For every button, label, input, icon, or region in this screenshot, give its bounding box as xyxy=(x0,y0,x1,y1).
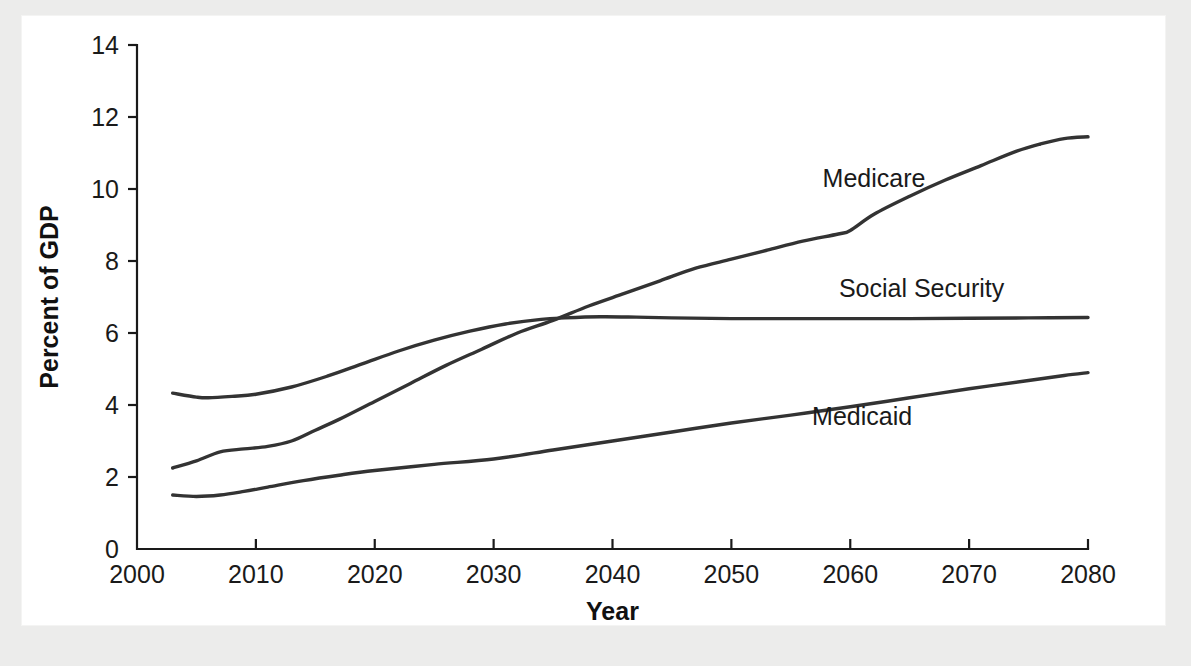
x-tick-label: 2060 xyxy=(822,560,878,588)
series-label-medicare: Medicare xyxy=(823,164,926,192)
y-axis-tick-labels: 02468101214 xyxy=(91,31,119,563)
series-line-social-security xyxy=(173,317,1088,398)
y-tick-label: 12 xyxy=(91,103,119,131)
x-tick-label: 2070 xyxy=(941,560,997,588)
figure-page: 02468101214 2000201020202030204020502060… xyxy=(22,16,1165,625)
series-label-social-security: Social Security xyxy=(839,274,1005,302)
x-tick-label: 2040 xyxy=(585,560,641,588)
series-lines xyxy=(173,137,1088,497)
figure-background: 02468101214 2000201020202030204020502060… xyxy=(0,0,1191,666)
x-tick-label: 2010 xyxy=(228,560,284,588)
series-annotations: MedicareSocial SecurityMedicaid xyxy=(812,164,1005,430)
x-tick-label: 2080 xyxy=(1060,560,1116,588)
x-tick-label: 2020 xyxy=(347,560,403,588)
x-tick-label: 2030 xyxy=(466,560,522,588)
x-tick-label: 2050 xyxy=(704,560,760,588)
chart-canvas: 02468101214 2000201020202030204020502060… xyxy=(22,16,1165,625)
x-tick-label: 2000 xyxy=(109,560,165,588)
y-axis-title: Percent of GDP xyxy=(35,205,63,388)
y-axis-ticks xyxy=(128,45,137,477)
y-tick-label: 4 xyxy=(105,391,119,419)
series-label-medicaid: Medicaid xyxy=(812,402,912,430)
x-axis-ticks xyxy=(256,539,1088,549)
y-tick-label: 14 xyxy=(91,31,119,59)
line-chart: 02468101214 2000201020202030204020502060… xyxy=(22,16,1165,625)
y-tick-label: 6 xyxy=(105,319,119,347)
y-tick-label: 8 xyxy=(105,247,119,275)
x-axis-tick-labels: 200020102020203020402050206020702080 xyxy=(109,560,1116,588)
y-tick-label: 10 xyxy=(91,175,119,203)
x-axis-title: Year xyxy=(586,597,639,625)
series-line-medicare xyxy=(173,137,1088,468)
y-tick-label: 2 xyxy=(105,463,119,491)
y-tick-label: 0 xyxy=(105,535,119,563)
